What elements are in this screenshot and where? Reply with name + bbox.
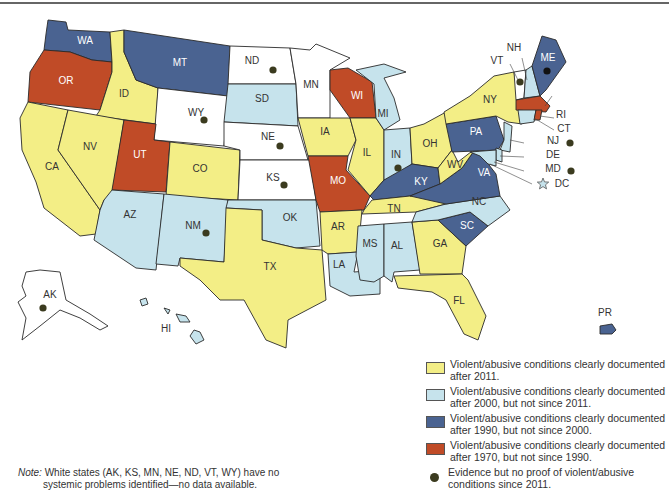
state-label-md: MD: [545, 163, 561, 174]
state-AR: [320, 210, 362, 254]
state-label-tn: TN: [387, 203, 400, 214]
state-label-hi: HI: [161, 323, 171, 334]
state-FL: [394, 274, 486, 340]
note-label: Note:: [18, 467, 42, 478]
evidence-dot-icon: [276, 142, 283, 149]
state-label-de: DE: [546, 149, 560, 160]
state-label-ct: CT: [557, 123, 570, 134]
legend-item-after-1990: Violent/abusive conditions clearly docum…: [426, 412, 666, 436]
state-label-tx: TX: [264, 261, 277, 272]
state-label-wa: WA: [77, 35, 93, 46]
state-label-ny: NY: [483, 94, 497, 105]
state-label-ne: NE: [261, 131, 275, 142]
state-label-ca: CA: [45, 161, 59, 172]
state-label-sd: SD: [255, 93, 269, 104]
state-label-fl: FL: [453, 295, 465, 306]
legend-item-after-1970: Violent/abusive conditions clearly docum…: [426, 439, 666, 463]
state-label-id: ID: [119, 88, 129, 99]
legend-text: Evidence but no proof of violent/abusive…: [448, 466, 666, 490]
legend-swatch-light-blue: [426, 389, 445, 401]
state-label-me: ME: [541, 52, 556, 63]
state-label-nj: NJ: [547, 135, 559, 146]
state-DE: [496, 148, 502, 162]
note-line-1: White states (AK, KS, MN, NE, ND, VT, WY…: [42, 467, 279, 478]
state-HI: [140, 298, 204, 344]
legend-item-evidence: Evidence but no proof of violent/abusive…: [426, 466, 666, 490]
state-label-nh: NH: [507, 42, 521, 53]
state-IA: [298, 118, 356, 156]
state-label-la: LA: [333, 259, 346, 270]
state-label-mo: MO: [330, 175, 346, 186]
legend-swatch-dark-blue: [426, 416, 445, 428]
state-label-in: IN: [391, 149, 401, 160]
state-label-oh: OH: [423, 138, 438, 149]
state-label-dc: DC: [555, 178, 569, 189]
evidence-dot-icon: [200, 116, 207, 123]
note-line-2: systemic problems identified—no data ava…: [18, 479, 378, 491]
dc-star-icon: [537, 178, 548, 189]
legend-text: Violent/abusive conditions clearly docum…: [450, 439, 666, 463]
evidence-dot-icon: [394, 164, 401, 171]
state-label-mt: MT: [173, 57, 187, 68]
state-label-il: IL: [363, 147, 372, 158]
evidence-dot-icon: [566, 139, 573, 146]
state-label-ia: IA: [320, 126, 330, 137]
evidence-dot-icon: [567, 167, 574, 174]
legend-text: Violent/abusive conditions clearly docum…: [450, 385, 666, 409]
state-label-pr: PR: [598, 307, 612, 318]
state-label-co: CO: [193, 163, 208, 174]
state-label-ms: MS: [363, 238, 378, 249]
evidence-dot-icon: [430, 473, 439, 482]
state-CT: [518, 110, 536, 124]
legend-swatch-yellow: [426, 362, 445, 374]
state-label-nm: NM: [185, 220, 201, 231]
state-label-va: VA: [478, 167, 491, 178]
evidence-dot-icon: [202, 229, 209, 236]
state-label-nc: NC: [472, 196, 486, 207]
evidence-dot-icon: [39, 304, 46, 311]
legend-text: Violent/abusive conditions clearly docum…: [450, 412, 666, 436]
state-label-ga: GA: [433, 238, 448, 249]
legend-swatch-red: [426, 443, 445, 455]
evidence-dot-icon: [516, 78, 523, 85]
state-label-vt: VT: [491, 55, 504, 66]
legend-text: Violent/abusive conditions clearly docum…: [450, 358, 666, 382]
state-label-ut: UT: [133, 149, 146, 160]
evidence-dot-icon: [543, 67, 550, 74]
state-label-ma: MA: [557, 89, 572, 100]
state-label-ak: AK: [43, 289, 57, 300]
state-label-ok: OK: [283, 212, 298, 223]
legend: Violent/abusive conditions clearly docum…: [426, 358, 666, 493]
evidence-dot-icon: [280, 181, 287, 188]
map-note: Note: White states (AK, KS, MN, NE, ND, …: [18, 467, 378, 491]
state-AK: [18, 270, 108, 340]
state-label-mn: MN: [303, 79, 319, 90]
state-label-wv: WV: [447, 159, 463, 170]
state-AZ: [94, 190, 164, 270]
evidence-dot-icon: [269, 66, 276, 73]
state-PR: [600, 324, 616, 334]
state-label-ky: KY: [414, 176, 428, 187]
state-label-or: OR: [59, 75, 74, 86]
state-label-ks: KS: [266, 172, 280, 183]
state-label-nd: ND: [245, 55, 259, 66]
state-label-wi: WI: [351, 90, 363, 101]
state-label-az: AZ: [124, 209, 137, 220]
state-label-wy: WY: [188, 107, 204, 118]
state-MS: [356, 224, 384, 282]
state-label-pa: PA: [470, 126, 483, 137]
state-ND: [228, 46, 296, 84]
legend-item-after-2011: Violent/abusive conditions clearly docum…: [426, 358, 666, 382]
legend-item-after-2000: Violent/abusive conditions clearly docum…: [426, 385, 666, 409]
state-label-mi: MI: [377, 108, 388, 119]
state-label-ri: RI: [556, 109, 566, 120]
state-SD: [224, 84, 298, 126]
state-label-nv: NV: [83, 141, 97, 152]
state-label-sc: SC: [460, 220, 474, 231]
state-label-ar: AR: [331, 221, 345, 232]
state-label-al: AL: [391, 240, 404, 251]
